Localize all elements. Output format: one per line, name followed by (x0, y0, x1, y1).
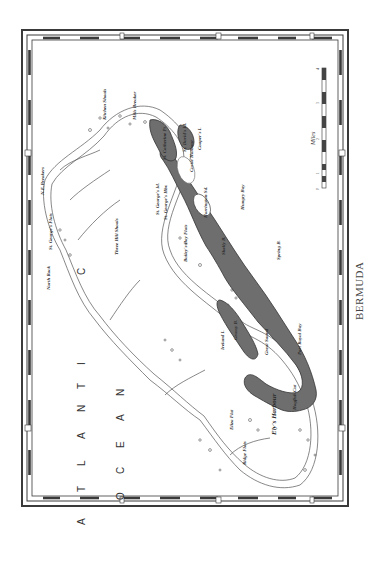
ocean-letter: N (76, 405, 87, 412)
bermuda-main-island (150, 120, 317, 412)
ocean-letter: A (115, 414, 126, 421)
label-hogfish-cut: Hogfish Cut (292, 384, 297, 411)
ocean-letter: C (115, 467, 126, 474)
label-great-sound: Great Sound (264, 328, 269, 355)
ocean-label: A T L A N T I C O C E A N (76, 268, 126, 525)
scale-tick: 1 (316, 172, 320, 174)
ocean-letter: C (76, 268, 87, 275)
label-st-catherine: St. Catherine Pt. (162, 126, 167, 160)
ocean-letter: O (115, 492, 126, 500)
label-baileys-bay-flats: Bailey's Bay Flats (183, 224, 188, 263)
ocean-letter: E (115, 441, 126, 448)
label-grassy-bay: Grassy B. (233, 320, 238, 340)
ocean-letter: T (76, 486, 87, 492)
label-st-davids: St. David's Id. (182, 123, 187, 152)
label-spring-bay: Spring B. (276, 240, 281, 260)
label-castle-harbour: Castle Harbour (189, 140, 194, 172)
label-eliza-flat: Eliza Flat (229, 409, 234, 431)
ocean-letter: T (76, 383, 87, 389)
map-frame (22, 30, 348, 506)
label-st-georges-harbour: St. George's Hbr. (163, 184, 168, 220)
ocean-letter: N (115, 389, 126, 396)
scale-title: Miles (310, 131, 316, 146)
label-mills-breaker: Mills Breaker (132, 91, 137, 121)
scale-tick: 2 (316, 138, 320, 140)
label-ireland-island: Ireland I. (220, 330, 225, 351)
ocean-letter: A (76, 432, 87, 439)
label-ne-breakers: N.E.Breakers (40, 167, 45, 196)
ocean-letter: L (76, 460, 87, 466)
ocean-letter: A (76, 518, 87, 525)
ocean-letter: I (76, 362, 87, 365)
label-elys-harbour: Ely's Harbour (270, 393, 278, 436)
map-caption: BERMUDA (353, 261, 365, 320)
label-port-royal-bay: Port Royal Bay (297, 323, 302, 355)
scale-bar: 4 3 2 1 0 Miles (310, 68, 326, 190)
label-kitchen-shoals: Kitchen Shoals (102, 89, 107, 121)
label-ridge-flats: Ridge Flats (242, 441, 247, 465)
scale-tick: 0 (316, 188, 320, 190)
label-north-rock: North Rock (46, 265, 51, 291)
label-shelly-bay: Shelly B. (221, 236, 226, 255)
bermuda-map: A T L A N T I C O C E A N Kitchen Shoals… (0, 0, 382, 575)
map-figure: A T L A N T I C O C E A N Kitchen Shoals… (0, 0, 382, 575)
label-harrington-sound: Harrington Sd. (203, 187, 208, 219)
scale-tick: 4 (316, 68, 320, 70)
label-st-georges-flats: St. George's Flats (48, 213, 53, 250)
label-hungry-bay: Hungry Bay (240, 184, 245, 211)
label-st-georges: St. George's Id. (155, 183, 160, 215)
label-coopers-island: Cooper's I. (197, 127, 202, 150)
scale-tick: 3 (316, 102, 320, 104)
label-three-hill-shoals: Three Hill Shoals (114, 218, 119, 255)
